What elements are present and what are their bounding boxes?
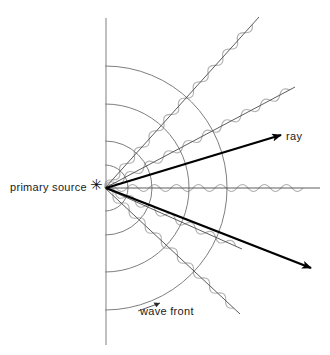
primary-source-marker-icon: ✳	[90, 178, 103, 193]
ray-line-up-steep	[105, 17, 259, 188]
label-ray: ray	[286, 130, 302, 142]
thin-rays	[105, 17, 320, 314]
ray-arrow-lower	[106, 188, 311, 268]
label-primary-source: primary source	[10, 181, 87, 193]
thick-arrow-rays	[106, 135, 311, 268]
ray-arrow-upper	[106, 135, 281, 188]
diagram-canvas	[0, 0, 330, 355]
wave-front-ray-diagram: primary source ✳ ray wave front	[0, 0, 330, 355]
label-wave-front: wave front	[140, 305, 194, 317]
ray-line-down-shallow	[105, 188, 242, 249]
ray-line-up-shallow	[105, 87, 295, 188]
ray-line-down-steep	[105, 188, 240, 314]
